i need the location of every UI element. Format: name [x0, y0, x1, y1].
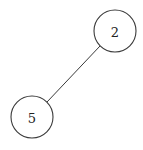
node-2: 2	[94, 10, 136, 52]
tree-diagram: 2 5	[0, 0, 143, 150]
node-5: 5	[11, 96, 53, 138]
node-2-label: 2	[111, 25, 119, 40]
node-5-label: 5	[28, 111, 36, 126]
edge-2-to-5	[47, 46, 100, 102]
